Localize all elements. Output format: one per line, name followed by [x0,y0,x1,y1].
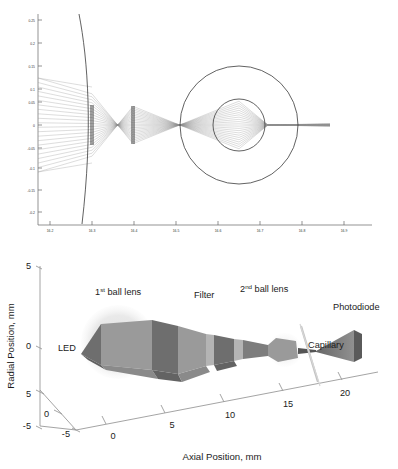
filter-band-2 [234,339,243,361]
y-tick-label: 0.05 [28,101,35,105]
axial-tick-label: 5 [169,420,174,430]
capillary-label: Capillary [308,340,344,350]
ray-trace-panel: 0.25 0.2 0.15 0.1 0.05 0 -0.05 -0.1 -0.1… [0,0,398,240]
radial-tick-label: 5 [26,261,31,271]
y-tick-label: -0.05 [27,147,35,151]
y-tick-label: 0.25 [28,19,35,23]
beam-segment-2 [178,326,206,374]
ray [38,105,330,133]
radial-axis-title: Radial Position, mm [5,303,16,388]
axial-tick-label: 10 [225,410,235,420]
ray [38,115,330,149]
ray [38,117,330,145]
y-ticks: 0.25 0.2 0.15 0.1 0.05 0 -0.05 -0.1 -0.1… [27,19,42,215]
y-tick-label: 0.2 [30,42,35,46]
x-ticks: 16.2 16.3 16.4 16.5 16.6 16.7 16.8 16.9 [47,221,348,233]
radial-tick-label: -5 [23,421,31,431]
axial-tick-label: 0 [110,431,115,441]
first-ball-lens-body [152,320,178,374]
beam-segment-3 [243,340,268,359]
photodiode-face [354,330,362,362]
x-tick-label: 16.4 [131,229,138,233]
capillary-tube-outline [300,324,320,386]
ray [38,106,330,172]
ray [38,96,330,137]
first-ball-lens-label: 1st ball lens [95,286,142,297]
second-ball-lens-body [268,338,298,362]
x-tick-label: 16.9 [341,229,348,233]
beam-segment-1 [101,320,152,370]
y-tick-label: 0.1 [30,88,35,92]
ray [38,121,330,137]
ray [38,112,330,159]
y-tick-label: -0.1 [29,167,35,171]
depth-tick-label: 5 [26,389,31,399]
y-tick-label: -0.15 [27,189,35,193]
ray-trace-svg: 0.25 0.2 0.15 0.1 0.05 0 -0.05 -0.1 -0.1… [0,0,398,240]
first-ball-lens-arc [79,14,88,224]
x-tick-label: 16.2 [47,229,54,233]
ray [38,78,330,144]
axial-axis-title: Axial Position, mm [183,451,262,462]
x-tick-label: 16.6 [215,229,222,233]
axial-tick-label: 20 [340,388,350,398]
aperture-1 [91,105,93,145]
x-tick-label: 16.7 [257,229,264,233]
led-label: LED [58,343,76,353]
filter-label: Filter [194,290,214,300]
ray [38,91,330,138]
ray [38,100,330,134]
ray-bundle [38,78,330,172]
y-tick-label: 0 [33,124,35,128]
depth-tick-label: -5 [62,429,70,439]
filter-band-1 [206,334,214,366]
photodiode-label: Photodiode [333,302,380,312]
figure-root: 0.25 0.2 0.15 0.1 0.05 0 -0.05 -0.1 -0.1… [0,0,398,469]
x-tick-label: 16.8 [299,229,306,233]
axial-tick-label: 15 [283,399,293,409]
filter-body [214,335,234,365]
beam-layout-3d-panel: 5 0 -5 5 0 -5 0 5 10 15 20 [0,238,398,469]
ray [38,114,330,130]
capillary-bore-circle [213,99,265,151]
ray [38,113,330,154]
ray-envelope [38,78,92,87]
ray-envelope [38,163,92,172]
y-tick-label: -0.2 [29,211,35,215]
y-tick-label: 0.15 [28,65,35,69]
x-tick-label: 16.3 [89,229,96,233]
radial-tick-label: 0 [26,341,31,351]
x-tick-label: 16.5 [173,229,180,233]
depth-tick-label: 0 [44,409,49,419]
beam-layout-3d-svg: 5 0 -5 5 0 -5 0 5 10 15 20 [0,238,398,469]
second-ball-lens-label: 2nd ball lens [240,283,289,294]
